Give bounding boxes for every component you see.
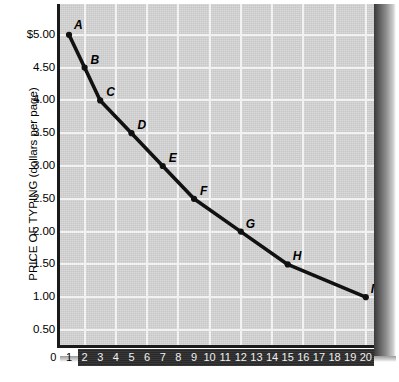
- demand-curve-points: [66, 32, 369, 301]
- point-label-e: E: [169, 151, 177, 165]
- data-point-d: [128, 130, 134, 136]
- point-label-h: H: [293, 249, 302, 263]
- point-label-g: G: [246, 217, 255, 231]
- point-label-a: A: [74, 18, 83, 32]
- point-label-i: I: [371, 282, 374, 296]
- point-label-d: D: [137, 118, 146, 132]
- demand-curve-line: [69, 35, 366, 297]
- point-label-b: B: [91, 53, 100, 67]
- data-point-i: [363, 294, 369, 300]
- data-point-a: [66, 32, 72, 38]
- data-point-f: [191, 196, 197, 202]
- data-point-b: [82, 65, 88, 71]
- data-point-g: [238, 229, 244, 235]
- point-label-c: C: [106, 85, 115, 99]
- data-point-c: [97, 97, 103, 103]
- chart-figure: $5.004.504.003.503.002.502.001.501.000.5…: [0, 0, 399, 382]
- point-label-f: F: [200, 184, 207, 198]
- data-point-e: [160, 163, 166, 169]
- data-point-h: [285, 261, 291, 267]
